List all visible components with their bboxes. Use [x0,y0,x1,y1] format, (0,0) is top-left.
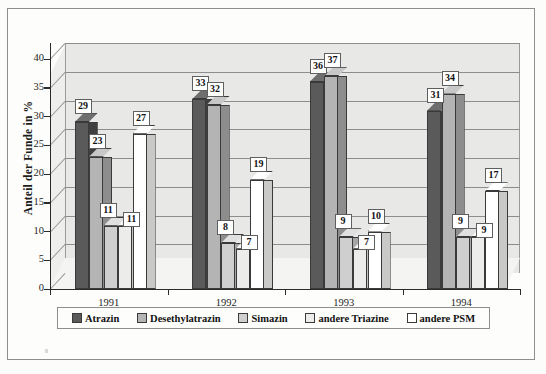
x-axis-tick [520,289,521,295]
bar-front-face [485,191,499,289]
x-axis-tick [50,289,51,295]
bar-front-face [353,249,367,289]
legend-swatch-icon [238,313,248,323]
bar-front-face [118,226,132,289]
legend-label: andere Triazine [318,313,388,324]
bar-desethylatrazin-1992 [207,96,221,289]
data-label: 9 [335,214,352,229]
bar-front-face [104,226,118,289]
data-label: 34 [442,71,459,86]
y-axis-tick-label: 30 [18,110,44,121]
y-axis-tick-label: 10 [18,225,44,236]
legend-item-andere-psm[interactable]: andere PSM [407,313,476,324]
y-axis-line [50,43,51,289]
data-label: 11 [123,212,140,227]
bar-front-face [427,111,441,289]
bar-side-face [264,180,273,289]
legend-swatch-icon [137,313,147,323]
bar-front-face [75,122,89,289]
legend-item-desethylatrazin[interactable]: Desethylatrazin [137,313,221,324]
data-label: 31 [427,88,444,103]
bar-front-face [221,243,235,289]
legend-swatch-icon [305,313,315,323]
legend-label: Desethylatrazin [150,313,221,324]
bar-andere-psm-1991 [133,125,147,289]
bar-front-face [89,157,103,289]
y-axis-tick-label: 25 [18,138,44,149]
bar-desethylatrazin-1994 [442,85,456,290]
data-label: 10 [368,209,385,224]
bar-front-face [442,94,456,290]
bar-simazin-1994 [456,228,470,289]
bar-desethylatrazin-1993 [324,67,338,289]
bar-front-face [207,105,221,289]
bar-simazin-1993 [339,228,353,289]
x-axis-tick [403,289,404,295]
bar-side-face [147,134,156,289]
chart-legend: AtrazinDesethylatrazinSimazinandere Tria… [57,307,490,329]
y-axis-tick [44,231,51,232]
bar-atrazin-1991 [75,113,89,289]
scan-artifact [45,349,48,353]
bar-front-face [192,99,206,289]
legend-label: Atrazin [85,313,119,324]
bar-simazin-1992 [221,234,235,289]
data-label: 7 [358,235,375,250]
x-axis-tick [168,289,169,295]
y-axis-tick-label: 20 [18,167,44,178]
legend-swatch-icon [407,313,417,323]
y-axis-tick [44,202,51,203]
bar-front-face [471,237,485,289]
legend-label: andere PSM [420,313,476,324]
data-label: 27 [133,111,150,126]
bar-simazin-1991 [104,217,118,289]
data-label: 9 [452,214,469,229]
data-label: 19 [250,157,267,172]
data-label: 17 [485,168,502,183]
data-label: 8 [217,220,234,235]
x-axis-tick [285,289,286,295]
y-axis-tick-label: 15 [18,196,44,207]
data-label: 11 [100,203,117,218]
legend-item-andere-triazine[interactable]: andere Triazine [305,313,388,324]
bar-andere-psm-1992 [250,171,264,289]
bar-front-face [310,82,324,289]
y-axis-tick [44,116,51,117]
legend-label: Simazin [251,313,287,324]
y-axis-tick-label: 40 [18,52,44,63]
y-axis-tick [44,59,51,60]
bar-front-face [339,237,353,289]
bar-front-face [236,249,250,289]
y-axis-tick [44,174,51,175]
bar-andere-triazine-1991 [118,217,132,289]
bar-atrazin-1994 [427,102,441,289]
y-axis-tick-label: 5 [18,253,44,264]
chart-page: Anteil der Funde in % 0510152025303540 1… [0,0,546,374]
legend-swatch-icon [72,313,82,323]
bar-atrazin-1992 [192,90,206,289]
gridline [65,43,520,44]
data-label: 7 [241,235,258,250]
bar-front-face [456,237,470,289]
bar-desethylatrazin-1991 [89,148,103,289]
data-label: 29 [75,99,92,114]
data-label: 37 [324,53,341,68]
bar-front-face [324,76,338,289]
bar-atrazin-1993 [310,73,324,289]
legend-item-atrazin[interactable]: Atrazin [72,313,119,324]
data-label: 32 [207,82,224,97]
data-label: 9 [476,223,493,238]
data-label: 23 [89,134,106,149]
legend-item-simazin[interactable]: Simazin [238,313,287,324]
bar-andere-psm-1993 [368,223,382,290]
y-axis-tick-label: 35 [18,81,44,92]
y-axis-title: Anteil der Funde in % [22,68,34,248]
y-axis-tick [44,260,51,261]
y-axis-tick-label: 0 [18,282,44,293]
bar-side-face [499,191,508,289]
bar-side-face [382,232,391,290]
y-axis-tick [44,87,51,88]
y-axis-tick [44,145,51,146]
